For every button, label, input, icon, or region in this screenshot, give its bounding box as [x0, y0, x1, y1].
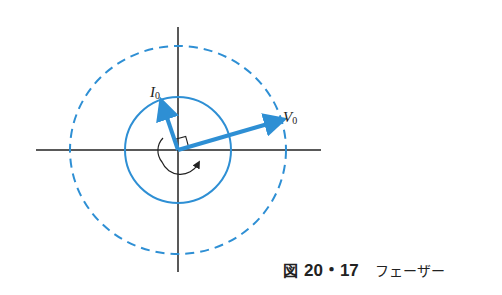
label-I0: I0	[150, 84, 160, 101]
phasor-V0	[178, 121, 278, 150]
phasor-I0	[163, 106, 178, 150]
figure-caption: 図20・17フェーザー	[283, 256, 445, 281]
figure-title: フェーザー	[375, 263, 445, 279]
figure-number: 20・17	[304, 261, 359, 280]
phasor-diagram	[0, 0, 502, 295]
figure-prefix: 図	[283, 262, 298, 280]
label-V0: V0	[283, 109, 297, 126]
